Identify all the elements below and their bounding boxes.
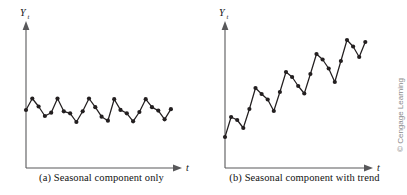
y-axis-label-sub-b: t [227, 13, 229, 20]
chart-b-svg: Y t t [203, 0, 406, 175]
chart-a-series [24, 96, 173, 124]
copyright-credit-text: © Cengage Learning [395, 78, 406, 152]
chart-b-series [223, 38, 368, 139]
y-axis-arrow-b [222, 21, 229, 30]
y-axis-label-sub-a: t [28, 13, 30, 20]
caption-panel-b: (b) Seasonal component with trend [203, 172, 406, 183]
y-axis-label-a: Y [20, 7, 27, 18]
x-axis-arrow-b [364, 165, 373, 172]
caption-panel-a: (a) Seasonal component only [0, 172, 203, 183]
panel-seasonal-only: Y t t [0, 0, 203, 195]
series-markers-a [24, 96, 173, 124]
figure-seasonal-patterns: Y t t [0, 0, 407, 195]
panel-seasonal-with-trend: Y t t [203, 0, 406, 195]
x-axis-arrow-a [173, 165, 182, 172]
chart-a-svg: Y t t [0, 0, 203, 175]
copyright-credit: © Cengage Learning [392, 78, 406, 190]
chart-a-axes [23, 21, 182, 171]
series-line-a [26, 99, 171, 123]
y-axis-arrow-a [23, 21, 30, 30]
y-axis-label-b: Y [219, 7, 226, 18]
series-line-b [225, 40, 365, 137]
